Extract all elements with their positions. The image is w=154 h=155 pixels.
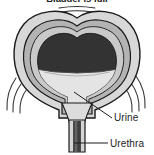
bladder-diagram: Bladder is full xyxy=(0,0,154,155)
motion-lines-top-icon xyxy=(59,7,95,13)
label-urine: Urine xyxy=(114,112,138,123)
label-urethra: Urethra xyxy=(110,138,144,149)
urethra-tube-icon xyxy=(69,120,85,152)
bladder-illustration xyxy=(0,0,154,155)
